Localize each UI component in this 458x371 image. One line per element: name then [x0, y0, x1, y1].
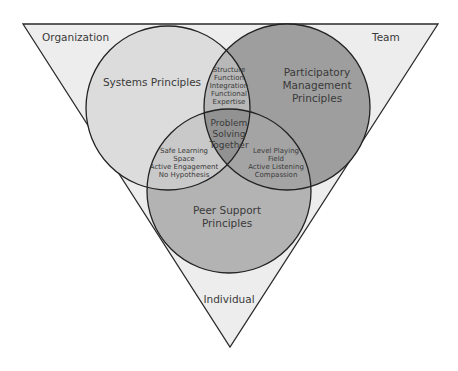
label-systems-principles: Systems Principles — [103, 76, 201, 88]
svg-text:Safe Learning: Safe Learning — [160, 147, 208, 155]
svg-text:Active Listening: Active Listening — [248, 163, 304, 171]
svg-text:Together: Together — [208, 140, 248, 150]
svg-text:Solving: Solving — [213, 129, 246, 139]
svg-text:Management: Management — [282, 79, 351, 91]
label-team: Team — [371, 31, 400, 43]
label-organization: Organization — [42, 31, 109, 43]
label-level-playing-field: Level Playing Field Active Listening Com… — [248, 147, 304, 179]
svg-text:Peer Support: Peer Support — [193, 204, 261, 216]
svg-text:Active Engagement: Active Engagement — [150, 163, 219, 171]
label-problem-solving-together: Problem Solving Together — [208, 118, 248, 150]
svg-text:Space: Space — [173, 155, 194, 163]
svg-text:Functional: Functional — [211, 90, 247, 98]
svg-text:Compassion: Compassion — [255, 171, 298, 179]
svg-text:Structure: Structure — [213, 66, 246, 74]
label-peer-support: Peer Support Principles — [193, 204, 261, 229]
svg-text:No Hypothesis: No Hypothesis — [159, 171, 210, 179]
svg-text:Integration: Integration — [210, 82, 249, 90]
label-individual: Individual — [203, 293, 254, 305]
svg-text:Problem: Problem — [211, 118, 248, 128]
label-structure-function: Structure Function Integration Functiona… — [210, 66, 249, 106]
svg-text:Principles: Principles — [292, 92, 342, 104]
svg-text:Level Playing: Level Playing — [253, 147, 299, 155]
svg-text:Expertise: Expertise — [213, 98, 246, 106]
svg-text:Field: Field — [268, 155, 284, 163]
svg-text:Function: Function — [214, 74, 244, 82]
svg-text:Participatory: Participatory — [284, 66, 351, 78]
svg-text:Principles: Principles — [202, 217, 252, 229]
label-participatory-management: Participatory Management Principles — [282, 66, 351, 104]
venn-diagram: Organization Team Individual Systems Pri… — [0, 0, 458, 371]
